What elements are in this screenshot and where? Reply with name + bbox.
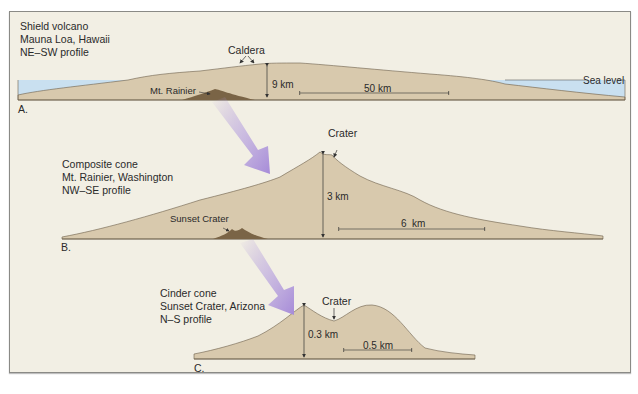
panel-c-title: Cinder cone Sunset Crater, Arizona N–S p… <box>160 287 265 326</box>
crater-label-b: Crater <box>328 127 358 139</box>
panel-a-shield-volcano <box>18 56 625 100</box>
panel-a-title-line-1: Shield volcano <box>20 20 110 33</box>
panel-b-title-line-1: Composite cone <box>62 158 173 171</box>
crater-label-c: Crater <box>322 295 352 307</box>
width-label-b: 6 km <box>401 218 425 229</box>
panel-a-letter: A. <box>18 103 28 115</box>
caldera-label: Caldera <box>228 44 265 56</box>
panel-c-title-line-2: Sunset Crater, Arizona <box>160 300 265 313</box>
mt-rainier-inset-label: Mt. Rainier <box>150 85 196 96</box>
width-label-c: 0.5 km <box>363 340 393 351</box>
volcano-profiles-diagram: Caldera 9 km 50 km Sea level Mt. Rainier… <box>0 0 638 394</box>
panel-c-title-line-1: Cinder cone <box>160 287 265 300</box>
panel-b-title-line-3: NW–SE profile <box>62 184 173 197</box>
panel-c-title-line-3: N–S profile <box>160 313 265 326</box>
width-label-a: 50 km <box>364 83 391 94</box>
panel-c-letter: C. <box>194 362 205 374</box>
panel-b-letter: B. <box>61 241 71 253</box>
transition-arrow-a-to-b <box>212 97 270 174</box>
panel-a-title: Shield volcano Mauna Loa, Hawaii NE–SW p… <box>20 20 110 59</box>
height-label-a: 9 km <box>272 79 294 90</box>
height-label-b: 3 km <box>327 191 349 202</box>
panel-b-title-line-2: Mt. Rainier, Washington <box>62 171 173 184</box>
sunset-crater-inset-label: Sunset Crater <box>170 213 229 224</box>
sea-level-label: Sea level <box>583 75 624 86</box>
panel-a-title-line-3: NE–SW profile <box>20 46 110 59</box>
panel-a-title-line-2: Mauna Loa, Hawaii <box>20 33 110 46</box>
panel-b-title: Composite cone Mt. Rainier, Washington N… <box>62 158 173 197</box>
height-label-c: 0.3 km <box>308 329 338 340</box>
